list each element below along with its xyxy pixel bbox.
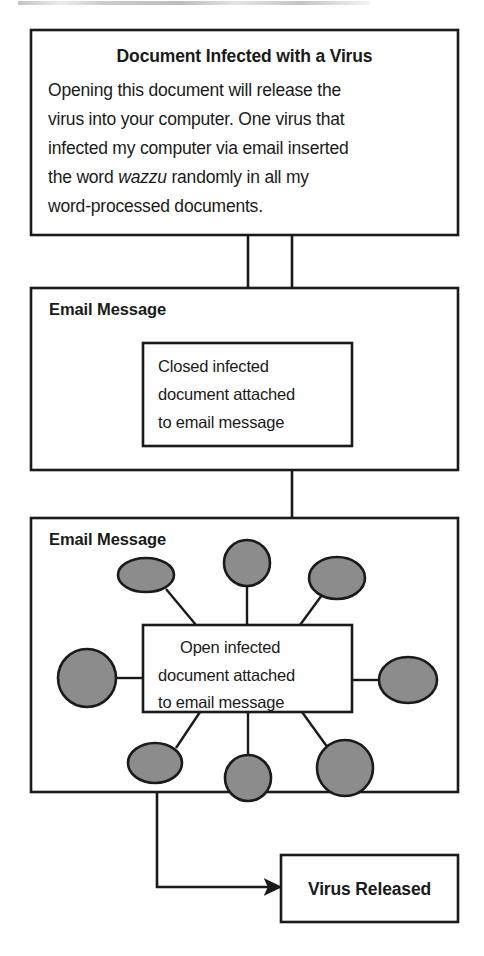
- diagram-root: Document Infected with a Virus Opening t…: [0, 0, 484, 956]
- closed-attachment-line-2: document attached: [158, 385, 295, 403]
- infected-document-body-line-1: Opening this document will release the: [48, 80, 341, 100]
- open-attachment-line-3: to email message: [158, 693, 284, 711]
- body-line-4-italic-wazzu: wazzu: [118, 167, 167, 187]
- stage2-email-message-box: Email Message Closed infected document a…: [31, 288, 458, 470]
- virion-right-icon: [379, 657, 437, 703]
- virion-top-right-icon: [309, 557, 365, 599]
- virion-top-center-icon: [224, 540, 270, 586]
- connector-email-open-to-virus-released: [157, 792, 272, 887]
- virion-top-left-icon: [118, 558, 174, 592]
- closed-attachment-line-1: Closed infected: [158, 357, 269, 375]
- stage3-email-message-box: Email Message: [31, 518, 458, 801]
- virus-propagation-diagram: Document Infected with a Virus Opening t…: [0, 0, 484, 956]
- stage1-infected-document-box: Document Infected with a Virus Opening t…: [31, 30, 458, 235]
- open-attachment-line-2: document attached: [158, 666, 295, 684]
- email-message-open-label: Email Message: [49, 530, 166, 548]
- body-line-4-pre: the word: [48, 167, 118, 187]
- body-line-4-post: randomly in all my: [167, 167, 310, 187]
- virion-left-icon: [58, 649, 116, 707]
- infected-document-body-line-4: the word wazzu randomly in all my: [48, 167, 309, 187]
- infected-document-heading: Document Infected with a Virus: [117, 46, 373, 66]
- infected-document-body-line-3: infected my computer via email inserted: [48, 138, 349, 158]
- virion-bottom-left-icon: [128, 743, 182, 783]
- virus-released-label: Virus Released: [308, 879, 431, 899]
- infected-document-body-line-5: word-processed documents.: [47, 196, 263, 216]
- virion-bottom-center-icon: [225, 755, 271, 801]
- infected-document-body-line-2: virus into your computer. One virus that: [48, 109, 345, 129]
- closed-attachment-line-3: to email message: [158, 413, 284, 431]
- open-attachment-line-1: Open infected: [180, 638, 280, 656]
- virion-bottom-right-icon: [317, 740, 373, 796]
- email-message-closed-label: Email Message: [49, 300, 166, 318]
- stage4-virus-released-box: Virus Released: [281, 855, 458, 922]
